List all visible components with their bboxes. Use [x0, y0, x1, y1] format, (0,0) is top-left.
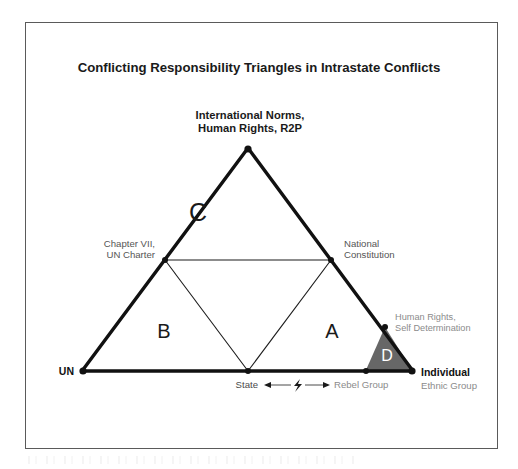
- vertex-dot-un: [79, 367, 86, 374]
- scan-artifact-strip: [28, 456, 358, 464]
- responsibility-triangle-diagram: Conflicting Responsibility Triangles in …: [0, 0, 518, 469]
- figure-root: Conflicting Responsibility Triangles in …: [0, 0, 518, 469]
- human-rights-label-line1: Human Rights,: [395, 312, 456, 322]
- apex-label-line2: Human Rights, R2P: [198, 122, 302, 134]
- vertex-label-individual: Individual: [421, 366, 470, 378]
- conflict-arrow-group: [264, 379, 330, 392]
- lightning-bolt-icon: [294, 379, 302, 392]
- inner-edge-left: [165, 260, 248, 371]
- vertex-dot-individual: [408, 367, 415, 374]
- right-mid-label-line2: Constitution: [344, 249, 395, 260]
- vertex-dot-apex: [244, 145, 251, 152]
- vertex-dot-human-rights: [382, 324, 388, 330]
- left-mid-label-line1: Chapter VII,: [104, 238, 155, 249]
- vertex-sublabel-ethnic-group: Ethnic Group: [421, 380, 477, 391]
- region-label-a: A: [325, 320, 339, 342]
- base-label-state: State: [236, 379, 258, 390]
- base-label-rebel-group: Rebel Group: [334, 379, 388, 390]
- right-mid-label-line1: National: [344, 238, 379, 249]
- arrow-right-icon: [323, 382, 330, 388]
- page-title: Conflicting Responsibility Triangles in …: [78, 60, 441, 75]
- region-label-c: C: [189, 198, 207, 226]
- arrow-left-icon: [264, 382, 271, 388]
- inner-edge-right: [248, 260, 331, 371]
- vertex-dot-state: [245, 368, 251, 374]
- vertex-label-un: UN: [59, 365, 74, 377]
- region-label-d: D: [381, 347, 393, 364]
- human-rights-label-line2: Self Determination: [395, 323, 471, 333]
- vertex-dot-left-mid: [162, 257, 168, 263]
- region-label-b: B: [157, 320, 170, 342]
- vertex-dot-right-mid: [328, 257, 334, 263]
- vertex-dot-rebel-group: [363, 368, 369, 374]
- left-mid-label-line2: UN Charter: [106, 249, 155, 260]
- apex-label-line1: International Norms,: [196, 109, 305, 121]
